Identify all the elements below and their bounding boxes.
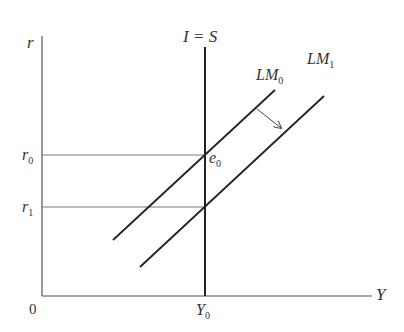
lm0-label: LM0 (255, 66, 283, 86)
y0-label: Y0 (196, 301, 210, 321)
lm1-curve (140, 96, 324, 267)
r0-label: r0 (22, 146, 33, 166)
lm1-label: LM1 (306, 50, 334, 70)
shift-arrow-icon (257, 109, 281, 128)
e0-label: e0 (209, 149, 221, 169)
y-axis-label: r (27, 33, 34, 52)
is-curve-label: I = S (182, 27, 218, 46)
is-lm-diagram: r Y 0 I = S LM0 LM1 r0 r1 Y0 e0 (0, 0, 404, 332)
origin-label: 0 (29, 301, 37, 317)
r1-label: r1 (22, 198, 33, 218)
is-label-text: I = S (182, 27, 218, 46)
x-axis-label: Y (376, 285, 387, 304)
